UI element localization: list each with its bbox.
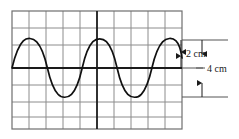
peak-to-peak-label: 4 cm xyxy=(207,63,227,74)
waveform-diagram: 2 cm 4 cm xyxy=(0,0,239,139)
amplitude-label: 2 cm xyxy=(186,48,206,59)
diagram-canvas: 2 cm 4 cm xyxy=(0,0,239,139)
